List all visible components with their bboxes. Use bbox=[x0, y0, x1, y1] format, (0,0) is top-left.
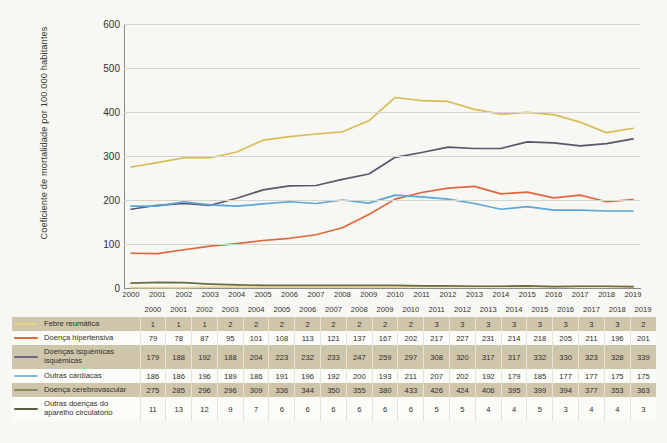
y-axis-label: Coeficiente de mortalidade por 100.000 h… bbox=[39, 3, 49, 263]
table-cell: 177 bbox=[579, 369, 605, 383]
legend-cell: Outras doenças doaparelho circulatório bbox=[12, 397, 140, 421]
table-row: Doenças isquémicasisquémicas179188192188… bbox=[12, 345, 656, 369]
table-cell: 2 bbox=[372, 317, 398, 331]
table-cell: 2 bbox=[321, 317, 347, 331]
table-cell: 202 bbox=[398, 331, 424, 345]
legend-cell: Outras cardíacas bbox=[12, 369, 140, 383]
table-cell: 191 bbox=[269, 369, 295, 383]
x-tick-label: 2016 bbox=[545, 290, 562, 299]
series-color-swatch-icon bbox=[14, 389, 38, 392]
legend-label: Doença cerebrovascular bbox=[44, 386, 126, 395]
table-cell: 395 bbox=[501, 383, 527, 397]
table-cell: 12 bbox=[192, 397, 218, 421]
table-cell: 3 bbox=[450, 317, 476, 331]
table-cell: 108 bbox=[269, 331, 295, 345]
table-cell: 247 bbox=[346, 345, 372, 369]
x-tick-label: 2010 bbox=[387, 290, 404, 299]
table-cell: 218 bbox=[527, 331, 553, 345]
table-cell: 433 bbox=[398, 383, 424, 397]
x-tick-label: 2000 bbox=[123, 290, 140, 299]
table-cell: 211 bbox=[398, 369, 424, 383]
table-cell: 6 bbox=[398, 397, 424, 421]
table-cell: 186 bbox=[166, 369, 192, 383]
x-tick-label: 2002 bbox=[175, 290, 192, 299]
table-cell: 175 bbox=[630, 369, 656, 383]
table-cell: 3 bbox=[604, 317, 630, 331]
table-cell: 179 bbox=[501, 369, 527, 383]
table-cell: 4 bbox=[475, 397, 501, 421]
year-column-header: 2010 bbox=[398, 303, 424, 317]
table-row: Doença cerebrovascular275285296296309336… bbox=[12, 383, 656, 397]
year-column-header: 2012 bbox=[450, 303, 476, 317]
x-axis-ticks: 2000200120022003200420052006200720082009… bbox=[124, 290, 640, 304]
x-tick-label: 2006 bbox=[281, 290, 298, 299]
table-cell: 1 bbox=[192, 317, 218, 331]
table-cell: 2 bbox=[269, 317, 295, 331]
table-cell: 2 bbox=[243, 317, 269, 331]
table-cell: 3 bbox=[527, 317, 553, 331]
table-cell: 202 bbox=[450, 369, 476, 383]
table-cell: 2 bbox=[217, 317, 243, 331]
table-cell: 3 bbox=[424, 317, 450, 331]
table-cell: 6 bbox=[346, 397, 372, 421]
year-column-header: 2007 bbox=[321, 303, 347, 317]
x-tick-label: 2007 bbox=[307, 290, 324, 299]
table-header: 2000200120022003200420052006200720082009… bbox=[12, 303, 656, 317]
table-cell: 188 bbox=[166, 345, 192, 369]
table-cell: 79 bbox=[140, 331, 166, 345]
year-column-header: 2001 bbox=[166, 303, 192, 317]
year-column-header: 2019 bbox=[630, 303, 656, 317]
table-cell: 113 bbox=[295, 331, 321, 345]
legend-label: Febre reumática bbox=[44, 320, 99, 329]
y-tick-label: 300 bbox=[84, 151, 120, 162]
table-row: Doença hipertensiva797887951011081131211… bbox=[12, 331, 656, 345]
table-cell: 320 bbox=[450, 345, 476, 369]
table-cell: 137 bbox=[346, 331, 372, 345]
table-cell: 186 bbox=[140, 369, 166, 383]
table-cell: 6 bbox=[372, 397, 398, 421]
table-cell: 121 bbox=[321, 331, 347, 345]
table-cell: 330 bbox=[553, 345, 579, 369]
table-cell: 189 bbox=[217, 369, 243, 383]
gridline bbox=[124, 68, 640, 69]
table-cell: 196 bbox=[295, 369, 321, 383]
table-cell: 317 bbox=[501, 345, 527, 369]
year-column-header: 2017 bbox=[579, 303, 605, 317]
table-cell: 328 bbox=[604, 345, 630, 369]
table-cell: 323 bbox=[579, 345, 605, 369]
table-cell: 78 bbox=[166, 331, 192, 345]
series-color-swatch-icon bbox=[14, 375, 38, 378]
table-cell: 380 bbox=[372, 383, 398, 397]
year-column-header: 2006 bbox=[295, 303, 321, 317]
year-column-header: 2016 bbox=[553, 303, 579, 317]
table-cell: 297 bbox=[398, 345, 424, 369]
table-cell: 217 bbox=[424, 331, 450, 345]
table-cell: 353 bbox=[604, 383, 630, 397]
chart-page: Coeficiente de mortalidade por 100.000 h… bbox=[0, 0, 667, 443]
table-cell: 363 bbox=[630, 383, 656, 397]
table-cell: 192 bbox=[475, 369, 501, 383]
table-cell: 296 bbox=[192, 383, 218, 397]
legend-cell: Doença hipertensiva bbox=[12, 331, 140, 345]
table-cell: 233 bbox=[321, 345, 347, 369]
x-tick-label: 2005 bbox=[255, 290, 272, 299]
year-column-header: 2003 bbox=[217, 303, 243, 317]
table-cell: 175 bbox=[604, 369, 630, 383]
table-body: Febre reumática11122222222333333332Doenç… bbox=[12, 317, 656, 421]
table-cell: 3 bbox=[475, 317, 501, 331]
table-cell: 394 bbox=[553, 383, 579, 397]
table-cell: 332 bbox=[527, 345, 553, 369]
table-cell: 232 bbox=[295, 345, 321, 369]
x-tick-label: 2009 bbox=[360, 290, 377, 299]
table-cell: 179 bbox=[140, 345, 166, 369]
table-cell: 355 bbox=[346, 383, 372, 397]
table-cell: 424 bbox=[450, 383, 476, 397]
table-cell: 193 bbox=[372, 369, 398, 383]
legend-label: Outras cardíacas bbox=[44, 372, 102, 381]
x-tick-label: 2019 bbox=[625, 290, 642, 299]
table-cell: 177 bbox=[553, 369, 579, 383]
series-color-swatch-icon bbox=[14, 356, 38, 359]
table-cell: 2 bbox=[398, 317, 424, 331]
table-cell: 214 bbox=[501, 331, 527, 345]
legend-label: Doença hipertensiva bbox=[44, 334, 113, 343]
